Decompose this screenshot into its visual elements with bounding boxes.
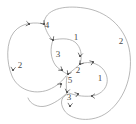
curve-lower-outer xyxy=(28,93,67,107)
curve-outer-right-lobe xyxy=(44,7,130,119)
label-vertex-3: 3 xyxy=(67,93,72,102)
arrow-head-icon xyxy=(75,92,79,97)
label-vertex-2: 2 xyxy=(76,66,81,75)
marker-top-right xyxy=(78,53,83,57)
arrow-head-icon xyxy=(78,53,83,57)
curve-layer xyxy=(8,7,131,119)
marker-left-lobe-low xyxy=(11,67,16,71)
label-region-right-2: 2 xyxy=(119,37,124,46)
label-region-right-1: 1 xyxy=(98,74,103,83)
label-region-left-2: 2 xyxy=(18,61,23,70)
marker-lower-bottom xyxy=(68,103,73,107)
arrow-head-icon xyxy=(11,67,15,70)
arrow-head-icon xyxy=(58,82,63,87)
diagram-canvas: 412322513 xyxy=(0,0,136,124)
marker-layer xyxy=(11,21,95,108)
arrow-head-icon xyxy=(68,103,72,106)
label-region-top-1: 1 xyxy=(74,33,79,42)
label-vertex-5: 5 xyxy=(68,76,73,85)
label-region-3: 3 xyxy=(56,50,61,59)
marker-lower-right xyxy=(91,94,95,98)
label-vertex-4: 4 xyxy=(45,21,50,30)
